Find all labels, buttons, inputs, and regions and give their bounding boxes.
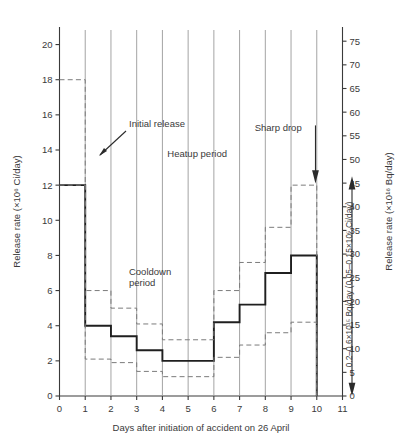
- annotation-heatup-period: Heatup period: [167, 148, 227, 159]
- y-ticklabel-right: 50: [350, 154, 361, 165]
- y-axis-title-left: Release rate (×10⁶ Ci/day): [11, 155, 22, 267]
- chart-svg: 0246810121416182005101520253035404550556…: [0, 0, 407, 443]
- x-ticklabel: 0: [57, 403, 62, 414]
- x-ticklabel: 6: [211, 403, 216, 414]
- y-ticklabel-left: 14: [42, 144, 53, 155]
- annotation-cooldown-period-line1: Cooldown: [129, 266, 171, 277]
- y-ticklabel-left: 6: [47, 285, 52, 296]
- annotation-initial-release: Initial release: [129, 118, 185, 129]
- x-ticklabel: 5: [185, 403, 190, 414]
- x-ticklabel: 8: [263, 403, 268, 414]
- x-ticklabel: 10: [311, 403, 322, 414]
- y-ticklabel-left: 2: [47, 355, 52, 366]
- y-ticklabel-left: 18: [42, 74, 53, 85]
- x-ticklabel: 2: [108, 403, 113, 414]
- y-ticklabel-right: 70: [350, 59, 361, 70]
- y-ticklabel-left: 16: [42, 109, 53, 120]
- x-ticklabel: 4: [160, 403, 165, 414]
- y-ticklabel-right: 65: [350, 83, 361, 94]
- x-ticklabel: 1: [83, 403, 88, 414]
- y-ticklabel-left: 4: [47, 320, 52, 331]
- annotation-cooldown-period-line2: period: [129, 277, 155, 288]
- x-ticklabel: 3: [134, 403, 139, 414]
- y-ticklabel-left: 8: [47, 250, 52, 261]
- y-ticklabel-left: 12: [42, 180, 53, 191]
- y-ticklabel-right: 60: [350, 107, 361, 118]
- x-ticklabel: 9: [288, 403, 293, 414]
- y-ticklabel-left: 0: [47, 390, 52, 401]
- y-ticklabel-right: 75: [350, 36, 361, 47]
- x-ticklabel: 7: [237, 403, 242, 414]
- y-axis-title-right: Release rate (×10¹⁶ Bq/day): [383, 152, 394, 270]
- chart-figure: 0246810121416182005101520253035404550556…: [0, 0, 407, 443]
- x-axis-title: Days after initiation of accident on 26 …: [113, 422, 290, 433]
- y-ticklabel-left: 20: [42, 39, 53, 50]
- y-ticklabel-right: 55: [350, 130, 361, 141]
- y-ticklabel-left: 10: [42, 215, 53, 226]
- annotation-sharp-drop-arrowhead: [312, 170, 319, 183]
- x-ticklabel: 11: [338, 403, 348, 414]
- annotation-sharp-drop: Sharp drop: [255, 122, 302, 133]
